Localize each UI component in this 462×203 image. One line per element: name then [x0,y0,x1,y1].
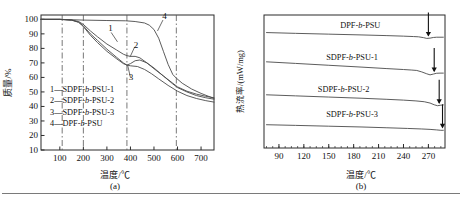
svg-text:400: 400 [124,153,138,163]
svg-text:270: 270 [422,151,436,161]
svg-text:20: 20 [29,130,39,140]
curve-SDPF-b-PSU-3 [266,125,443,131]
svg-text:3: 3 [129,72,134,82]
panel-b: 90120150180210240270热流率/(mW/mg) DPF-b-PS… [231,0,462,203]
svg-text:1: 1 [108,23,113,33]
svg-text:100: 100 [25,14,39,24]
svg-text:210: 210 [372,151,386,161]
curve-label-SDPF-b-PSU-3: SDPF-b-PSU-3 [326,110,378,119]
legend-item-1: 1—SDPF-b-PSU-1 [50,85,114,94]
svg-text:150: 150 [322,151,336,161]
svg-text:质量/%: 质量/% [2,68,13,97]
curve-SDPF-b-PSU-1 [266,62,443,75]
legend-item-3: 3—SDPF-b-PSU-3 [50,108,114,117]
panel-a-tag: (a) [60,181,170,191]
svg-text:100: 100 [53,153,67,163]
curve-label-SDPF-b-PSU-1: SDPF-b-PSU-1 [326,53,378,62]
legend-item-4: 4—DPF-b-PSU [50,119,103,128]
svg-text:70: 70 [29,58,39,68]
svg-text:30: 30 [29,116,39,126]
svg-text:10: 10 [29,145,39,155]
curve-SDPF-b-PSU-2 [266,95,443,106]
svg-text:50: 50 [29,87,39,97]
curve-label-DPF-b-PSU: DPF-b-PSU [340,21,380,30]
svg-text:120: 120 [297,151,311,161]
panel-b-tag: (b) [306,181,416,191]
svg-text:40: 40 [29,101,39,111]
arrow-DPF-b-PSU [426,12,431,36]
svg-text:240: 240 [397,151,411,161]
svg-text:2: 2 [134,40,139,50]
bottom-divider [2,193,460,194]
svg-text:90: 90 [29,29,39,39]
svg-text:180: 180 [347,151,361,161]
svg-text:300: 300 [100,153,114,163]
svg-text:90: 90 [274,151,284,161]
arrow-SDPF-b-PSU-2 [437,80,442,104]
arrow-SDPF-b-PSU-1 [432,48,437,72]
panel-b-xlabel: 温度/℃ [306,168,416,181]
panel-a-xlabel: 温度/℃ [60,168,170,181]
arrow-SDPF-b-PSU-3 [440,104,445,128]
panel-a: 1002003004005006007001020304050607080901… [0,0,231,203]
svg-text:60: 60 [29,72,39,82]
svg-text:4: 4 [162,11,167,21]
curve-DPF-b-PSU [266,33,443,39]
svg-text:200: 200 [77,153,91,163]
svg-text:80: 80 [29,43,39,53]
svg-text:热流率/(mW/mg): 热流率/(mW/mg) [235,50,245,113]
svg-text:700: 700 [194,153,208,163]
svg-text:500: 500 [147,153,161,163]
legend-item-2: 2—SDPF-b-PSU-2 [50,96,114,105]
figure-container: 1002003004005006007001020304050607080901… [0,0,462,203]
curve-label-SDPF-b-PSU-2: SDPF-b-PSU-2 [318,85,370,94]
svg-text:600: 600 [171,153,185,163]
